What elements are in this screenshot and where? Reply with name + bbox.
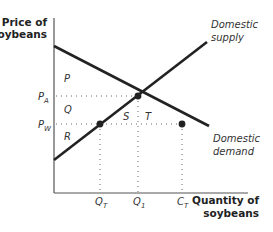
y-axis-title-line2: soybeans — [0, 28, 47, 40]
qt-label: QT — [95, 196, 108, 210]
demand-label-line1: Domestic — [213, 133, 261, 144]
equilibrium-point — [135, 93, 142, 100]
area-t-label: T — [145, 111, 152, 122]
ct-label: CT — [177, 196, 189, 210]
area-s-label: S — [123, 111, 130, 122]
demand-label-line2: demand — [213, 146, 255, 157]
area-r-label: R — [64, 131, 71, 142]
supply-label-line2: supply — [211, 32, 245, 43]
pw-label: PW — [38, 119, 52, 133]
q1-label: Q1 — [133, 196, 145, 210]
area-p-label: P — [64, 73, 71, 84]
domestic-demand-at-pw-point — [179, 121, 186, 128]
area-q-label: Q — [64, 104, 72, 115]
pa-label: PA — [38, 91, 49, 105]
domestic-supply-curve — [54, 42, 207, 160]
x-axis-title-line1: Quantity of — [192, 194, 259, 206]
supply-label-line1: Domestic — [211, 19, 259, 30]
x-axis-title-line2: soybeans — [203, 207, 259, 219]
supply-demand-diagram: Price of soybeans Quantity of soybeans D… — [0, 0, 273, 232]
domestic-supply-at-pw-point — [97, 121, 104, 128]
y-axis-title-line1: Price of — [2, 16, 48, 28]
